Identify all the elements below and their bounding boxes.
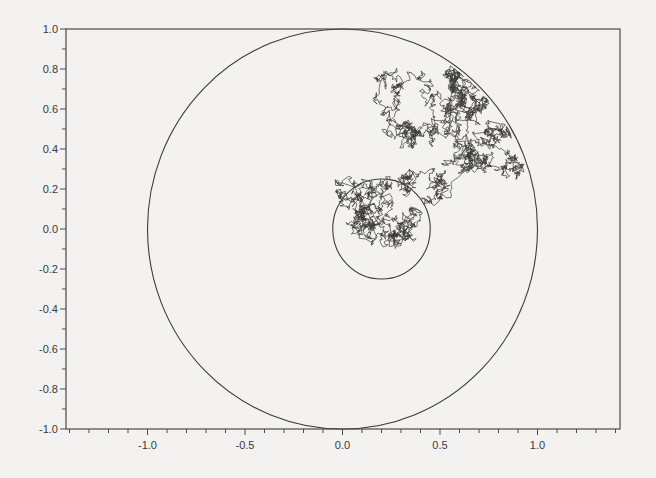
x-tick-label: -0.5 [236,439,255,451]
x-tick-label: 0.0 [335,439,350,451]
x-tick-label: -1.0 [138,439,157,451]
x-tick-label: 0.5 [432,439,447,451]
y-tick-label: 0.2 [43,183,58,195]
y-tick-label: 1.0 [43,23,58,35]
y-tick-label: -0.2 [39,263,58,275]
y-tick-label: 0.0 [43,223,58,235]
y-tick-label: 0.8 [43,63,58,75]
y-tick-label: 0.6 [43,103,58,115]
x-tick-label: 1.0 [530,439,545,451]
y-tick-label: 0.4 [43,143,58,155]
y-tick-label: -0.6 [39,343,58,355]
circles [148,29,538,429]
axes: -1.0-0.8-0.6-0.4-0.20.00.20.40.60.81.0-1… [39,23,620,451]
chart: -1.0-0.8-0.6-0.4-0.20.00.20.40.60.81.0-1… [0,0,656,478]
y-tick-label: -0.8 [39,383,58,395]
unit-circle [148,29,538,429]
y-tick-label: -0.4 [39,303,58,315]
y-tick-label: -1.0 [39,423,58,435]
plot-frame [66,29,620,429]
